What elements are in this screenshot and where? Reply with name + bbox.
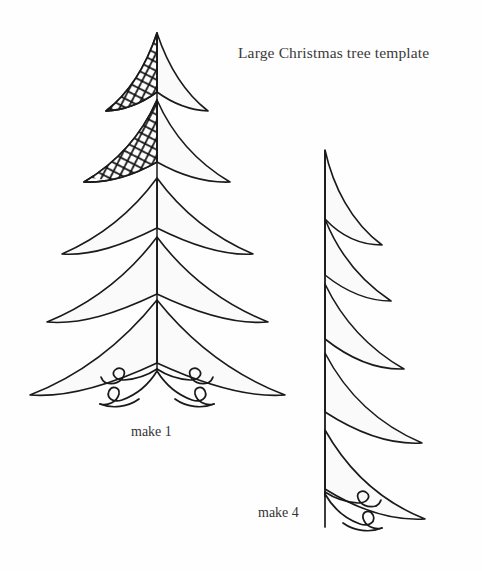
template-page: Large Christmas tree template make 1 mak… [0, 0, 482, 571]
tree-template-artboard [0, 0, 482, 571]
canvas-background [0, 0, 482, 571]
make-1-caption: make 1 [131, 424, 172, 440]
make-4-caption: make 4 [258, 505, 299, 521]
page-title: Large Christmas tree template [238, 44, 429, 62]
